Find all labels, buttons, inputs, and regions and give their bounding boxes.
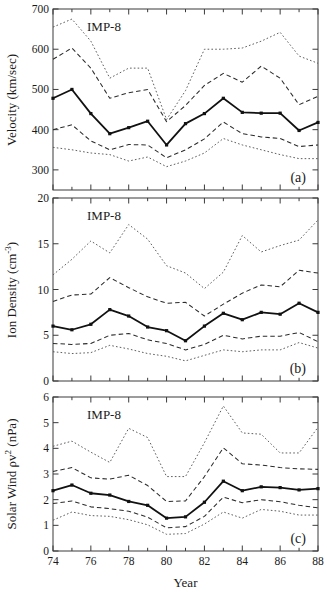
data-point: [146, 325, 149, 328]
series-a-upper-quartile: [53, 48, 318, 122]
data-point: [51, 325, 54, 328]
data-point: [260, 485, 263, 488]
data-point: [51, 489, 54, 492]
annotation-imp8-b: IMP-8: [87, 208, 121, 223]
data-point: [279, 313, 282, 316]
y-axis-title-b: Ion Density (cm-3): [3, 242, 19, 338]
data-point: [297, 302, 300, 305]
data-point: [222, 312, 225, 315]
y-axis-title-a: Velocity (km/sec): [4, 54, 19, 146]
x-tick-label-3: 80: [161, 555, 173, 567]
data-point: [108, 132, 111, 135]
series-a-median: [53, 89, 318, 145]
x-tick-label-1: 76: [85, 555, 97, 567]
multi-panel-timeseries-chart: 300400500600700IMP-8(a)05101520IMP-8(b)0…: [0, 0, 327, 610]
y-tick-label-b-1: 5: [43, 329, 49, 341]
x-tick-label-5: 84: [237, 555, 249, 567]
data-point: [51, 97, 54, 100]
data-point: [241, 489, 244, 492]
figure-container: 300400500600700IMP-8(a)05101520IMP-8(b)0…: [0, 0, 327, 610]
data-point: [297, 488, 300, 491]
panel-c: 0123456IMP-8(c): [43, 391, 319, 557]
panel-label-b: (b): [290, 361, 307, 377]
x-tick-label-0: 74: [47, 555, 59, 567]
data-point: [297, 129, 300, 132]
x-axis-title: Year: [174, 575, 199, 590]
superscript: 2: [3, 450, 13, 455]
data-point: [146, 504, 149, 507]
panel-label-a: (a): [290, 170, 306, 186]
data-point: [165, 329, 168, 332]
y-tick-label-a-4: 700: [32, 3, 50, 15]
series-b-lower-decile: [53, 343, 318, 361]
series-a-lower-decile: [53, 139, 318, 167]
data-point: [89, 112, 92, 115]
y-tick-label-c-4: 4: [43, 442, 49, 454]
y-axis-title-c: Solar Wind ρv2 (nPa): [3, 419, 19, 530]
data-point: [165, 143, 168, 146]
data-point: [89, 323, 92, 326]
data-point: [203, 112, 206, 115]
panel-a: 300400500600700IMP-8(a): [32, 3, 320, 190]
data-point: [108, 308, 111, 311]
y-tick-label-b-3: 15: [38, 238, 50, 250]
series-a-upper-decile: [53, 19, 318, 120]
series-c-lower-quartile: [53, 497, 318, 528]
superscript: -3: [3, 246, 13, 254]
annotation-imp8-c: IMP-8: [87, 407, 121, 422]
y-tick-label-b-0: 0: [43, 375, 49, 387]
data-point: [279, 112, 282, 115]
data-point: [316, 121, 319, 124]
y-tick-label-c-1: 1: [43, 519, 49, 531]
x-tick-label-4: 82: [199, 555, 211, 567]
data-point: [184, 515, 187, 518]
data-point: [316, 311, 319, 314]
data-point: [89, 492, 92, 495]
panel-b-frame: [53, 198, 318, 381]
series-a-lower-quartile: [53, 122, 318, 158]
y-tick-label-c-3: 3: [43, 468, 49, 480]
series-b-median: [53, 303, 318, 341]
y-tick-label-a-1: 400: [32, 124, 50, 136]
data-point: [127, 314, 130, 317]
data-point: [165, 517, 168, 520]
data-point: [127, 126, 130, 129]
panel-label-c: (c): [290, 531, 306, 547]
data-point: [70, 483, 73, 486]
data-point: [203, 501, 206, 504]
data-point: [184, 122, 187, 125]
panel-a-frame: [53, 9, 318, 190]
data-point: [203, 325, 206, 328]
series-b-upper-decile: [53, 220, 318, 289]
series-c-lower-decile: [53, 509, 318, 534]
y-tick-label-a-2: 500: [32, 83, 50, 95]
y-tick-label-a-0: 300: [32, 164, 50, 176]
data-point: [222, 97, 225, 100]
data-point: [70, 88, 73, 91]
data-point: [146, 120, 149, 123]
data-point: [260, 311, 263, 314]
data-point: [241, 318, 244, 321]
y-tick-label-c-6: 6: [43, 391, 49, 403]
data-point: [184, 339, 187, 342]
panel-b: 05101520IMP-8(b): [38, 192, 320, 387]
data-point: [316, 487, 319, 490]
data-point: [241, 111, 244, 114]
data-point: [70, 328, 73, 331]
x-tick-label-2: 78: [123, 555, 135, 567]
y-tick-label-c-2: 2: [43, 494, 49, 506]
y-tick-label-a-3: 600: [32, 43, 50, 55]
y-tick-label-b-4: 20: [38, 192, 50, 204]
series-b-upper-quartile: [53, 270, 318, 316]
data-point: [260, 112, 263, 115]
data-point: [127, 500, 130, 503]
data-point: [108, 493, 111, 496]
data-point: [279, 486, 282, 489]
annotation-imp8-a: IMP-8: [87, 19, 121, 34]
y-tick-label-c-5: 5: [43, 417, 49, 429]
x-tick-label-7: 88: [312, 555, 324, 567]
x-tick-label-6: 86: [274, 555, 286, 567]
series-c-median: [53, 481, 318, 518]
data-point: [222, 480, 225, 483]
y-tick-label-b-2: 10: [38, 284, 50, 296]
